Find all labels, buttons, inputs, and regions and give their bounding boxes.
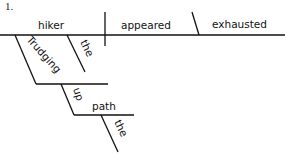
subject-article-word: the bbox=[78, 38, 96, 59]
predicate-adjective-divider bbox=[192, 12, 199, 35]
subject-word: hiker bbox=[38, 19, 65, 31]
preposition-word: up bbox=[71, 86, 87, 103]
sentence-diagram: hiker appeared exhausted the Trudging up… bbox=[0, 0, 285, 158]
predicate-adjective-word: exhausted bbox=[212, 18, 267, 30]
object-article-word: the bbox=[112, 118, 130, 139]
prepositional-object-word: path bbox=[92, 100, 116, 112]
verb-word: appeared bbox=[121, 19, 171, 31]
